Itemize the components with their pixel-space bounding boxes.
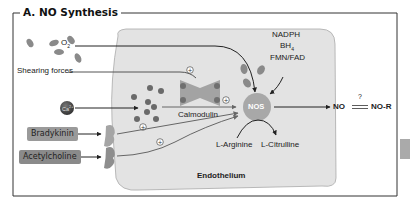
fmn-fad-label: FMN/FAD: [270, 53, 305, 62]
nadph-label: NADPH: [272, 30, 300, 39]
acetylcholine-pill: Acetylcholine: [19, 150, 81, 164]
bradykinin-pill: Bradykinin: [27, 127, 78, 141]
bh4-label: BH4: [280, 41, 294, 52]
bradykinin-receptor-icon: [104, 125, 115, 147]
page-side-tab: [400, 139, 410, 159]
oxygen-label-sub: 2: [67, 43, 70, 49]
calcium-label-sup: 2+: [69, 104, 74, 109]
svg-text:+: +: [188, 67, 193, 73]
l-arginine-label: L-Arginine: [216, 140, 252, 149]
l-citrulline-label: L-Citrulline: [261, 140, 299, 149]
calcium-label: Ca2+: [62, 104, 74, 112]
calmodulin-label: Calmodulin: [178, 110, 218, 119]
svg-text:+: +: [158, 139, 163, 145]
equilibrium-icon: [352, 106, 368, 109]
no-label: NO: [333, 102, 345, 111]
nos-label: NOS: [248, 102, 264, 111]
svg-text:+: +: [224, 97, 229, 103]
oxygen-molecules-icon: [25, 35, 83, 64]
endothelium-label: Endothelium: [197, 171, 245, 180]
no-r-label: NO-R: [371, 102, 391, 111]
acetylcholine-receptor-icon: [104, 147, 115, 169]
figure-title: A. NO Synthesis: [20, 6, 121, 18]
equilibrium-question-label: ?: [358, 93, 362, 100]
bh4-label-sub: 4: [291, 46, 294, 52]
oxygen-label: O2: [61, 38, 70, 49]
shearing-forces-label: Shearing forces: [17, 66, 73, 75]
bh4-label-text: BH: [280, 41, 291, 50]
calcium-label-text: Ca: [62, 106, 69, 112]
